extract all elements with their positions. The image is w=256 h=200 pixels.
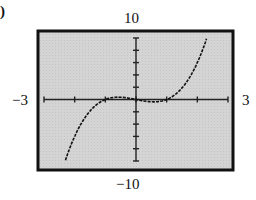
graph-window	[0, 0, 256, 200]
